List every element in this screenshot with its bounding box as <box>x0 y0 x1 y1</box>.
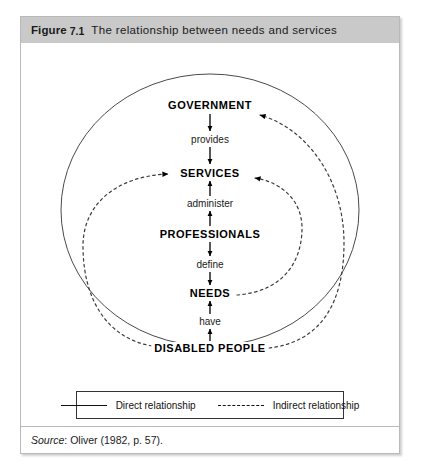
edge-label-administer: administer <box>184 198 236 209</box>
diagram-canvas: GOVERNMENT SERVICES PROFESSIONALS NEEDS … <box>21 43 399 392</box>
figure-screenshot: Figure 7.1 The relationship between need… <box>0 0 421 464</box>
legend-label-indirect: Indirect relationship <box>273 400 360 411</box>
figure-number: 7.1 <box>70 25 85 37</box>
source-line: Source: Oliver (1982, p. 57). <box>31 434 163 446</box>
source-keyword: Source <box>31 434 64 446</box>
node-professionals: PROFESSIONALS <box>157 228 264 240</box>
source-separator: : <box>64 434 67 446</box>
indirect-path-services-left <box>83 174 168 346</box>
legend-item-direct: Direct relationship <box>61 400 196 411</box>
figure-title: The relationship between needs and servi… <box>91 24 337 36</box>
legend-label-direct: Direct relationship <box>116 400 196 411</box>
node-needs: NEEDS <box>187 287 233 299</box>
diagram-svg <box>21 43 399 392</box>
legend-item-indirect: Indirect relationship <box>218 400 360 411</box>
source-divider <box>21 426 399 427</box>
source-text: Oliver (1982, p. 57). <box>70 434 163 446</box>
node-disabled-people: DISABLED PEOPLE <box>151 342 268 354</box>
edge-label-provides: provides <box>188 134 232 145</box>
figure-header: Figure 7.1 The relationship between need… <box>21 17 399 43</box>
figure-label: Figure <box>31 24 67 36</box>
edge-label-define: define <box>193 259 226 270</box>
node-services: SERVICES <box>177 167 242 179</box>
figure-box: Figure 7.1 The relationship between need… <box>20 16 400 454</box>
node-government: GOVERNMENT <box>165 99 255 111</box>
legend: Direct relationship Indirect relationshi… <box>76 391 344 419</box>
dashed-line-icon <box>218 405 264 406</box>
edge-label-have: have <box>196 316 224 327</box>
solid-line-icon <box>61 405 107 406</box>
